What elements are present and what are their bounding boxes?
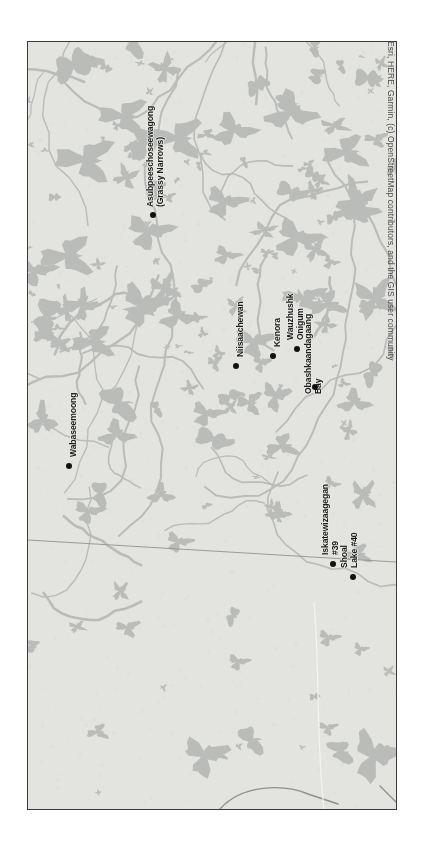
- place-label-niisaachewan: Niisaachewan: [236, 301, 246, 357]
- map-screenshot: Esri, HERE, Garmin, (c) OpenStreetMap co…: [0, 0, 424, 847]
- place-dot-obashkaandagaang-bay[interactable]: [312, 384, 318, 390]
- place-label-asubpeeschoseewagong: Asubpeeschoseewagong(Grassy Narrows): [146, 106, 165, 207]
- place-label-wabaseemoong: Wabaseemoong: [69, 393, 79, 457]
- place-label-line: (Grassy Narrows): [156, 106, 166, 207]
- place-label-shoal-lake-40: ShoalLake #40: [340, 532, 359, 568]
- place-label-obashkaandagaang-bay: ObashkaandagaangBay: [304, 314, 323, 394]
- place-label-line: Kenora: [272, 318, 282, 347]
- place-dot-wabaseemoong[interactable]: [66, 463, 72, 469]
- place-label-kenora: Kenora: [273, 318, 283, 347]
- place-label-line: Lake #40: [350, 532, 360, 568]
- place-dot-shoal-lake-40[interactable]: [350, 574, 356, 580]
- map-frame[interactable]: [27, 41, 397, 810]
- place-label-line: Niisaachewan: [235, 301, 245, 357]
- place-dot-niisaachewan[interactable]: [233, 363, 239, 369]
- place-dot-kenora[interactable]: [270, 353, 276, 359]
- place-label-iskatewizaagegan-39: Iskatewizaagegan#39: [321, 484, 340, 555]
- place-label-line: Bay: [314, 314, 324, 394]
- basemap-canvas[interactable]: [28, 42, 396, 809]
- place-dot-iskatewizaagegan-39[interactable]: [330, 561, 336, 567]
- place-dot-asubpeeschoseewagong[interactable]: [150, 212, 156, 218]
- place-label-line: Wabaseemoong: [68, 393, 78, 457]
- place-dot-wauzhushk-onigum[interactable]: [294, 346, 300, 352]
- map-attribution: Esri, HERE, Garmin, (c) OpenStreetMap co…: [384, 41, 398, 401]
